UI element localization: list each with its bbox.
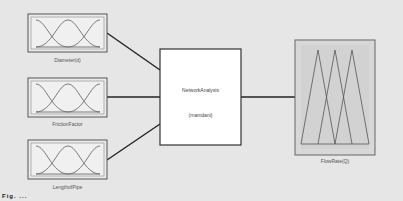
system-block[interactable]: [160, 49, 241, 145]
connector-input-1: [107, 33, 160, 70]
system-name: NetworkAnalysis: [160, 87, 241, 93]
output-block-flow-rate[interactable]: [295, 40, 375, 155]
input-label-diameter: Diameter(d): [28, 57, 107, 63]
figure-caption: Fig. ...: [2, 193, 27, 199]
input-block-friction-factor[interactable]: [28, 78, 107, 117]
input-label-friction-factor: FrictionFactor: [28, 121, 107, 127]
system-method: (mamdani): [160, 112, 241, 118]
output-label-flow-rate: FlowRate(Q): [295, 158, 375, 164]
input-label-length-of-pipe: LengthofPipe: [28, 184, 107, 190]
fis-diagram: [0, 0, 403, 201]
connector-input-3: [107, 124, 160, 160]
input-block-diameter[interactable]: [28, 14, 107, 52]
input-block-length-of-pipe[interactable]: [28, 140, 107, 179]
